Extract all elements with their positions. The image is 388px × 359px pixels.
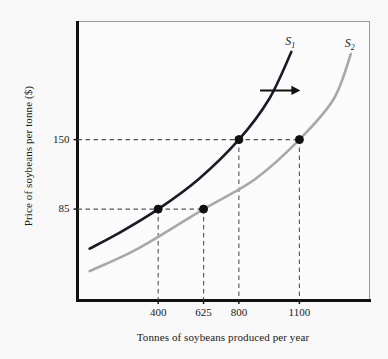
curve-label-s1-subscript: 1 — [291, 41, 295, 50]
supply-shift-chart-figure: Price of soybeans per tonne ($) Tonnes o… — [0, 0, 388, 359]
y-tick-label-150: 150 — [30, 133, 70, 145]
x-axis-title: Tonnes of soybeans produced per year — [76, 331, 370, 343]
x-axis-line — [76, 299, 371, 302]
curve-label-s2: S2 — [345, 36, 355, 52]
curve-label-s1: S1 — [285, 34, 295, 50]
x-tick-label-800: 800 — [212, 306, 266, 318]
y-axis-title: Price of soybeans per tonne ($) — [22, 56, 34, 256]
y-tick-label-85: 85 — [30, 202, 70, 214]
y-axis-line — [76, 21, 79, 302]
plot-frame — [76, 21, 370, 301]
curve-label-s2-subscript: 2 — [351, 43, 355, 52]
x-tick-label-1100: 1100 — [272, 306, 326, 318]
